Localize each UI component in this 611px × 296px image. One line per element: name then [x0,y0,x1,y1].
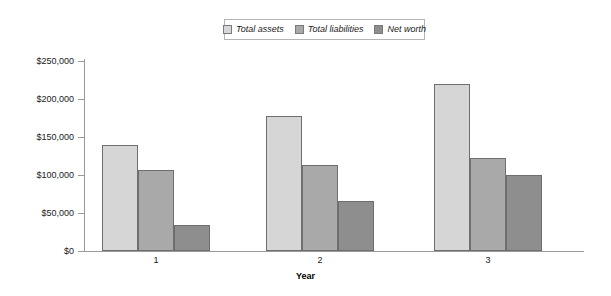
y-axis-label: $150,000 [4,133,74,142]
x-axis-label-2: 2 [290,256,350,265]
legend-swatch-total-liabilities [295,25,304,34]
x-axis-title: Year [0,272,611,281]
y-axis-label: $0 [4,247,74,256]
bar-3-total-assets [434,84,470,251]
y-axis-label: $100,000 [4,171,74,180]
bar-3-net-worth [506,175,542,251]
legend-label-net-worth: Net worth [387,25,426,34]
bar-1-total-liabilities [138,170,174,251]
bar-2-total-liabilities [302,165,338,251]
x-axis-label-1: 1 [126,256,186,265]
y-axis-tick [78,251,84,252]
x-axis-line [84,251,584,252]
bar-1-net-worth [174,225,210,251]
legend-label-total-liabilities: Total liabilities [308,25,364,34]
bar-chart: Total assets Total liabilities Net worth… [0,0,611,296]
legend-label-total-assets: Total assets [236,25,284,34]
bar-2-net-worth [338,201,374,251]
bar-3-total-liabilities [470,158,506,251]
legend-item-total-assets: Total assets [223,25,284,34]
bar-2-total-assets [266,116,302,251]
y-axis-label: $200,000 [4,95,74,104]
y-axis-label: $250,000 [4,57,74,66]
legend-swatch-net-worth [374,25,383,34]
chart-legend: Total assets Total liabilities Net worth [224,19,425,40]
legend-item-net-worth: Net worth [374,25,426,34]
legend-swatch-total-assets [223,25,232,34]
y-axis-label: $50,000 [4,209,74,218]
x-axis-label-3: 3 [458,256,518,265]
legend-item-total-liabilities: Total liabilities [295,25,364,34]
bar-1-total-assets [102,145,138,251]
plot-area [84,61,584,251]
